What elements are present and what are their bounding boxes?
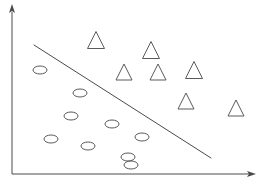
ellipse-marker xyxy=(105,120,119,128)
triangle-marker xyxy=(186,62,203,79)
triangle-marker xyxy=(88,32,105,49)
triangle-marker xyxy=(143,42,160,59)
x-axis xyxy=(12,171,256,177)
triangle-marker xyxy=(150,64,166,80)
ellipse-marker xyxy=(44,135,58,143)
ellipse-marker xyxy=(64,112,78,120)
y-axis-arrow-icon xyxy=(9,4,15,13)
ellipse-marker xyxy=(73,89,87,97)
ellipse-marker xyxy=(124,161,138,169)
triangle-class-group xyxy=(88,32,245,117)
ellipse-marker xyxy=(135,133,149,141)
ellipse-marker xyxy=(81,142,95,150)
triangle-marker xyxy=(116,64,132,80)
y-axis xyxy=(9,4,15,174)
ellipse-marker xyxy=(121,153,135,161)
scatter-plot-canvas xyxy=(0,0,260,185)
scatter-plot-figure xyxy=(0,0,260,185)
decision-boundary-line xyxy=(34,45,211,158)
triangle-marker xyxy=(228,100,244,116)
triangle-marker xyxy=(178,93,194,109)
ellipse-marker xyxy=(33,66,47,74)
